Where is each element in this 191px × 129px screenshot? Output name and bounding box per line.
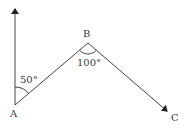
point-label-a: A [9,108,18,119]
angle-label-a: 50° [20,74,38,85]
point-label-b: B [83,28,90,39]
segment-bc [88,43,167,111]
angle-arc-a [15,87,29,93]
angle-label-b: 100° [77,57,101,68]
angle-arc-b [80,50,97,54]
point-label-c: C [171,112,179,123]
geometry-diagram: A B C 50° 100° [0,0,191,129]
